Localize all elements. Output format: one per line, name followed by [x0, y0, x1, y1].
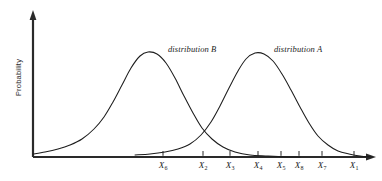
x-axis-tick-label-X4: X4: [254, 160, 263, 170]
x-axis-tick-label-X3: X3: [226, 160, 235, 170]
x-axis-tick-label-X2: X2: [199, 160, 208, 170]
axes-group: [30, 10, 376, 161]
x-axis-tick-label-X5: X5: [277, 160, 286, 170]
probability-distribution-figure: Probability distribution B distribution …: [0, 0, 382, 181]
curve-distribution-a: [135, 53, 372, 157]
x-axis-tick-label-X8: X8: [295, 160, 304, 170]
y-axis-arrow-icon: [30, 10, 37, 20]
x-axis-tick-marks: [163, 151, 354, 156]
curve-label-distribution-b: distribution B: [168, 44, 216, 54]
plot-canvas: [0, 0, 382, 181]
curve-label-distribution-a: distribution A: [274, 44, 322, 54]
y-axis-label: Probability: [14, 33, 23, 123]
x-axis-tick-label-X7: X7: [318, 160, 327, 170]
x-axis-tick-label-X6: X6: [159, 160, 168, 170]
distribution-curves: [33, 52, 372, 157]
x-axis-tick-label-X1: X1: [350, 160, 359, 170]
curve-distribution-b: [33, 52, 300, 157]
